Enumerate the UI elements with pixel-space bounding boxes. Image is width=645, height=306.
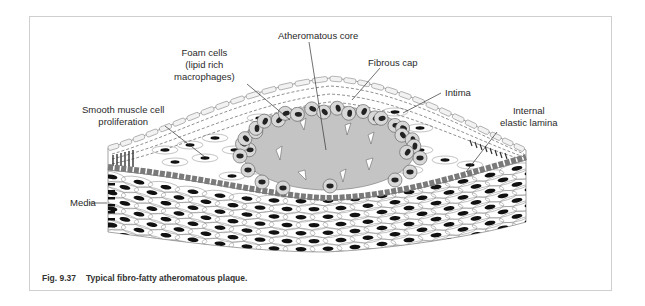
label-atheromatous-core: Atheromatous core [278,30,358,42]
label-smooth-muscle-cell-proliferation: Smooth muscle cell proliferation [82,104,164,128]
label-fibrous-cap: Fibrous cap [368,57,418,69]
label-media: Media [70,197,96,209]
caption-text: Typical fibro-fatty atheromatous plaque. [86,273,247,283]
atheroma-illustration [0,0,645,306]
label-intima: Intima [445,87,471,99]
caption-number: Fig. 9.37 [42,273,76,283]
label-internal-elastic-lamina: Internal elastic lamina [500,105,558,129]
label-foam-cells: Foam cells (lipid rich macrophages) [174,47,235,83]
figure-caption: Fig. 9.37Typical fibro-fatty atheromatou… [42,273,247,283]
